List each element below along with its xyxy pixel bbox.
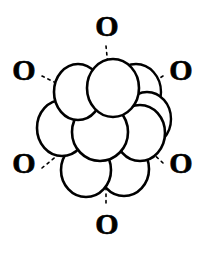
chemical-structure-figure: O O O O O O bbox=[0, 0, 210, 256]
sphere-top-center bbox=[87, 59, 139, 117]
ligand-label-top: O bbox=[92, 11, 122, 41]
ligand-label-top-left: O bbox=[9, 55, 39, 85]
ligand-label-top-right: O bbox=[166, 55, 196, 85]
ligand-label-bottom: O bbox=[92, 209, 122, 239]
ligand-label-bottom-right: O bbox=[166, 148, 196, 178]
ligand-label-bottom-left: O bbox=[9, 148, 39, 178]
